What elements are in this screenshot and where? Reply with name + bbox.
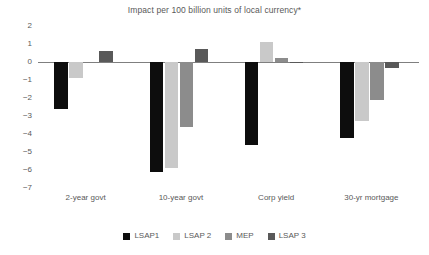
bar [275,58,289,62]
y-axis-tick-label: −3 [2,112,32,120]
y-axis-tick-label: 2 [2,22,32,30]
bar [385,62,399,68]
bar [150,62,164,172]
x-axis-category-label: Corp yield [229,192,324,203]
y-axis-tick-label: −6 [2,166,32,174]
y-axis-tick-label: −1 [2,76,32,84]
bar [54,62,68,109]
y-axis-tick-label: −2 [2,94,32,102]
y-axis: 210−1−2−3−4−5−6−7 [0,26,36,188]
chart-container: Impact per 100 billion units of local cu… [0,0,429,255]
legend-swatch-icon [173,233,180,240]
bar-group [324,26,419,188]
legend-item[interactable]: LSAP 2 [173,232,211,240]
bar-group [38,26,133,188]
bar [355,62,369,121]
x-axis-category-label: 10-year govt [133,192,228,203]
y-axis-tick-label: 0 [2,58,32,66]
bar [165,62,179,168]
bar [290,62,304,63]
legend-label: LSAP1 [134,232,159,240]
y-axis-tick-label: −7 [2,184,32,192]
bar [180,62,194,127]
legend-item[interactable]: MEP [225,232,253,240]
y-axis-tick-label: 1 [2,40,32,48]
bar-group [229,26,324,188]
legend-swatch-icon [225,233,232,240]
bar [245,62,259,145]
bar [195,49,209,62]
x-axis-category-label: 2-year govt [38,192,133,203]
chart-legend: LSAP1LSAP 2MEPLSAP 3 [0,232,429,240]
y-axis-tick-label: −5 [2,148,32,156]
legend-item[interactable]: LSAP 3 [268,232,306,240]
x-axis-category-label: 30-yr mortgage [324,192,419,203]
legend-swatch-icon [268,233,275,240]
bar [340,62,354,138]
legend-label: LSAP 3 [279,232,306,240]
legend-label: MEP [236,232,253,240]
legend-label: LSAP 2 [184,232,211,240]
bar [370,62,384,100]
bar [69,62,83,78]
bar [260,42,274,62]
bar-group [133,26,228,188]
bar [99,51,113,62]
chart-title: Impact per 100 billion units of local cu… [0,5,429,15]
x-axis-labels: 2-year govt10-year govtCorp yield30-yr m… [38,192,419,224]
plot-area [38,26,419,188]
y-axis-tick-label: −4 [2,130,32,138]
legend-swatch-icon [123,233,130,240]
legend-item[interactable]: LSAP1 [123,232,159,240]
